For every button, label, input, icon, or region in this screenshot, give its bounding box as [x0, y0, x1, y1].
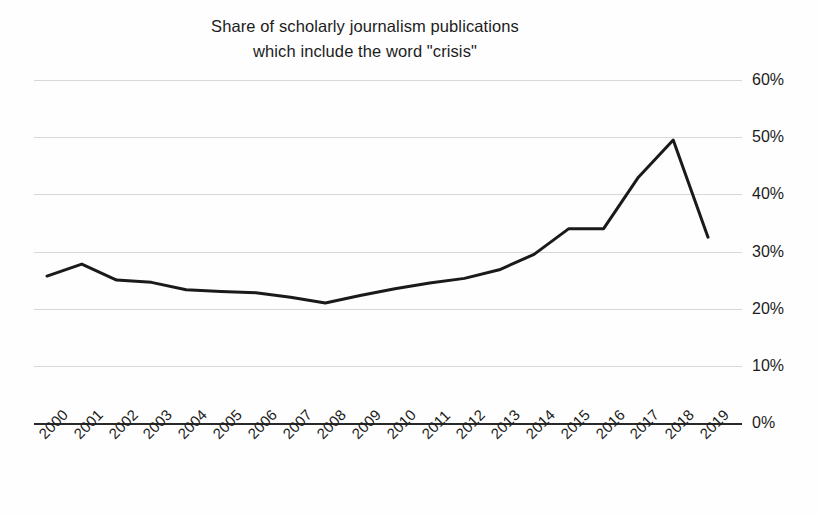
series-line-crisis: [47, 140, 708, 303]
chart-figure: Share of scholarly journalism publicatio…: [0, 0, 818, 516]
plot-area: [34, 80, 742, 423]
y-tick-label-50pct: 50%: [752, 128, 784, 146]
x-axis: 2000200120022003200420052006200720082009…: [34, 430, 742, 510]
y-tick-label-0pct: 0%: [752, 414, 775, 432]
y-tick-label-20pct: 20%: [752, 300, 784, 318]
y-tick-label-40pct: 40%: [752, 185, 784, 203]
y-tick-label-30pct: 30%: [752, 243, 784, 261]
y-tick-label-10pct: 10%: [752, 357, 784, 375]
y-tick-label-60pct: 60%: [752, 71, 784, 89]
y-axis: 60%50%40%30%20%10%0%: [752, 0, 818, 516]
